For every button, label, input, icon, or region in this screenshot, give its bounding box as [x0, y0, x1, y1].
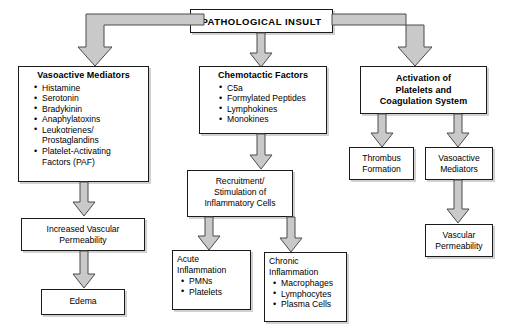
node-recruitment-stimulation: Recruitment/ Stimulation of Inflammatory… — [187, 170, 293, 217]
list-item: • Anaphylatoxins — [34, 114, 143, 125]
bullet-icon: • — [34, 146, 37, 157]
node-chemotactic-factors-inner: Chemotactic Factors • C5a • Formylated P… — [200, 67, 326, 129]
node-vasoactive-mediators-right-inner: Vasoactive Mediators — [426, 148, 492, 179]
list-item-label: Platelets — [189, 287, 222, 297]
list-item: • Histamine — [34, 83, 143, 94]
node-increased-vascular-permeability: Increased Vascular Permeability — [21, 218, 145, 251]
bullet-icon: • — [273, 278, 276, 289]
node-chemotactic-factors-heading: Chemotactic Factors — [205, 70, 321, 82]
bullet-icon: • — [34, 114, 37, 125]
bullet-icon: • — [219, 114, 222, 125]
bullet-icon: • — [219, 103, 222, 114]
list-item-label: Leukotrienes/ — [42, 125, 94, 135]
list-item: • Monokines — [219, 114, 321, 125]
list-item-label: Lymphokines — [227, 104, 277, 114]
connector-root-to-vasoactive — [78, 13, 196, 69]
node-acute-inflammation: Acute Inflammation • PMNs • Platelets — [172, 250, 251, 310]
node-vascular-permeability-inner: Vascular Permeability — [426, 225, 492, 256]
list-item-label-cont: Factors (PAF) — [42, 157, 143, 168]
list-item: • Lymphocytes — [273, 289, 342, 300]
bullet-icon: • — [34, 124, 37, 135]
connector-vasoactive-to-permeability — [74, 182, 96, 217]
node-edema: Edema — [41, 289, 125, 315]
node-thrombus-formation: Thrombus Formation — [349, 147, 414, 180]
node-pathological-insult-inner: PATHOLOGICAL INSULT — [191, 10, 332, 31]
bullet-icon: • — [34, 103, 37, 114]
node-acute-inflammation-line2: Inflammation — [177, 265, 246, 276]
node-vasoactive-mediators-right: Vasoactive Mediators — [425, 147, 493, 180]
list-item: • Formylated Peptides — [219, 93, 321, 104]
list-item: • Macrophages — [273, 278, 342, 289]
list-item-label: Monokines — [227, 114, 269, 124]
bullet-icon: • — [181, 286, 184, 297]
bullet-icon: • — [181, 276, 184, 287]
node-recruitment-line3: Inflammatory Cells — [193, 198, 287, 209]
list-item: • Platelets — [181, 287, 246, 298]
connector-vasoactive-right-to-vascular-permeability — [448, 180, 470, 224]
list-item: • Plasma Cells — [273, 299, 342, 310]
flowchart-canvas: PATHOLOGICAL INSULT Vasoactive Mediators… — [0, 0, 510, 329]
connector-chemotactic-to-recruitment — [251, 134, 273, 170]
node-activation-inner: Activation of Platelets and Coagulation … — [361, 67, 486, 112]
node-pathological-insult: PATHOLOGICAL INSULT — [190, 9, 333, 33]
node-activation-line3: Coagulation System — [366, 96, 481, 108]
list-item-label: Plasma Cells — [281, 299, 331, 309]
connector-recruitment-to-chronic — [281, 217, 303, 253]
list-item-label: Platelet-Activating — [42, 146, 111, 156]
node-increased-vascular-permeability-line1: Increased Vascular — [27, 224, 139, 235]
node-vascular-permeability: Vascular Permeability — [425, 224, 493, 257]
node-activation-line1: Activation of — [366, 73, 481, 85]
list-item-label: PMNs — [189, 276, 212, 286]
node-activation-line2: Platelets and — [366, 85, 481, 97]
node-pathological-insult-label: PATHOLOGICAL INSULT — [196, 16, 327, 27]
node-chronic-inflammation-line1: Chronic — [269, 256, 342, 267]
list-item-label: Bradykinin — [42, 104, 82, 114]
node-recruitment-line1: Recruitment/ — [193, 176, 287, 187]
bullet-icon: • — [273, 288, 276, 299]
chemotactic-factors-list: • C5a • Formylated Peptides • Lymphokine… — [205, 83, 321, 125]
acute-inflammation-list: • PMNs • Platelets — [177, 276, 246, 297]
node-vasoactive-mediators-right-line2: Mediators — [431, 164, 487, 175]
chronic-inflammation-list: • Macrophages • Lymphocytes • Plasma Cel… — [269, 278, 342, 310]
node-chronic-inflammation-line2: Inflammation — [269, 267, 342, 278]
node-vasoactive-mediators-heading: Vasoactive Mediators — [24, 70, 143, 82]
list-item: • Platelet-Activating Factors (PAF) — [34, 146, 143, 167]
node-increased-vascular-permeability-line2: Permeability — [27, 235, 139, 246]
node-thrombus-formation-inner: Thrombus Formation — [350, 148, 413, 179]
connector-root-to-activation — [332, 13, 442, 69]
bullet-icon: • — [34, 82, 37, 93]
list-item-label: Anaphylatoxins — [42, 114, 100, 124]
connector-root-to-chemotactic — [251, 33, 273, 68]
node-vasoactive-mediators-right-line1: Vasoactive — [431, 153, 487, 164]
node-activation-platelets-coagulation: Activation of Platelets and Coagulation … — [360, 66, 487, 114]
list-item-label: C5a — [227, 83, 243, 93]
connector-activation-to-vasoactive — [448, 114, 470, 148]
node-vascular-permeability-line2: Permeability — [431, 241, 487, 252]
list-item: • Serotonin — [34, 93, 143, 104]
node-increased-vascular-permeability-inner: Increased Vascular Permeability — [22, 219, 144, 250]
list-item: • PMNs — [181, 276, 246, 287]
bullet-icon: • — [273, 299, 276, 310]
node-edema-inner: Edema — [42, 290, 124, 311]
vasoactive-mediators-list: • Histamine • Serotonin • Bradykinin • A… — [24, 83, 143, 168]
node-vascular-permeability-line1: Vascular — [431, 230, 487, 241]
list-item: • C5a — [219, 83, 321, 94]
node-thrombus-formation-line1: Thrombus — [355, 153, 408, 164]
list-item-label: Macrophages — [281, 278, 333, 288]
node-vasoactive-mediators: Vasoactive Mediators • Histamine • Serot… — [18, 66, 149, 182]
list-item: • Bradykinin — [34, 104, 143, 115]
list-item-label-cont: Prostaglandins — [42, 135, 143, 146]
node-recruitment-stimulation-inner: Recruitment/ Stimulation of Inflammatory… — [188, 171, 292, 213]
list-item-label: Formylated Peptides — [227, 93, 306, 103]
bullet-icon: • — [34, 93, 37, 104]
list-item-label: Histamine — [42, 83, 80, 93]
list-item-label: Lymphocytes — [281, 289, 331, 299]
node-chronic-inflammation-inner: Chronic Inflammation • Macrophages • Lym… — [265, 253, 346, 313]
node-edema-label: Edema — [47, 296, 119, 307]
connector-permeability-to-edema — [74, 251, 96, 289]
node-chronic-inflammation: Chronic Inflammation • Macrophages • Lym… — [264, 252, 347, 322]
node-vasoactive-mediators-inner: Vasoactive Mediators • Histamine • Serot… — [19, 67, 148, 171]
bullet-icon: • — [219, 93, 222, 104]
node-acute-inflammation-inner: Acute Inflammation • PMNs • Platelets — [173, 251, 250, 300]
node-acute-inflammation-line1: Acute — [177, 254, 246, 265]
